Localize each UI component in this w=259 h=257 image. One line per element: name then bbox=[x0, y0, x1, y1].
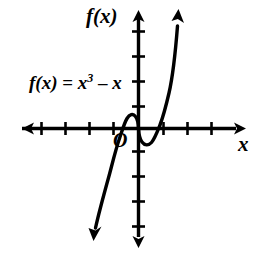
equation-term1-base: x bbox=[78, 72, 88, 93]
function-equation-annotation: f(x) = x3 – x bbox=[29, 72, 122, 92]
curve-upper-right-arrowhead bbox=[172, 9, 185, 23]
equation-term1-exponent: 3 bbox=[87, 71, 93, 85]
x-axis-label: x bbox=[238, 134, 249, 155]
function-curve bbox=[89, 9, 185, 241]
equation-lhs: f(x) bbox=[29, 72, 57, 93]
origin-label: O bbox=[113, 130, 127, 150]
graph-canvas bbox=[0, 0, 259, 257]
y-axis-label: f(x) bbox=[86, 6, 117, 27]
equation-operator: – bbox=[98, 72, 108, 93]
equation-equals: = bbox=[62, 72, 73, 93]
y-axis-bottom-arrowhead bbox=[133, 236, 145, 248]
cubic-function-graph-figure: f(x) x O f(x) = x3 – x bbox=[0, 0, 259, 257]
equation-term2: x bbox=[112, 72, 122, 93]
